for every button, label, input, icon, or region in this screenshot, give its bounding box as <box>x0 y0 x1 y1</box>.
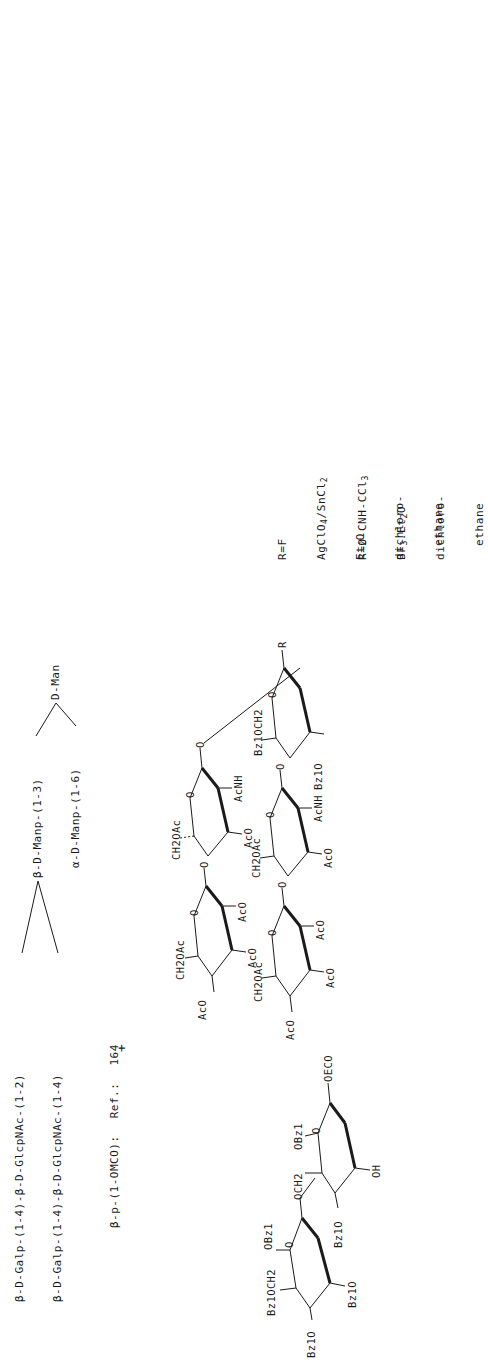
donor-label: AcNH <box>312 795 324 822</box>
donor-label: Bz1OCH2 <box>252 709 264 756</box>
donor-label: CH2OAc <box>170 820 182 860</box>
condition-promoter: BF3.Et2O <box>395 475 408 560</box>
donor-label: O <box>264 811 276 818</box>
donor-label: Bz1O <box>312 763 324 790</box>
donor-label: AcNH <box>232 775 244 802</box>
donor-label: AcO <box>314 920 326 940</box>
condition-leaving-group: R=F <box>276 477 289 560</box>
donor-label: O <box>276 881 288 888</box>
condition-solvent-1: dichloro- <box>434 475 447 560</box>
donor-label: O <box>266 691 278 698</box>
donor-label: O <box>194 741 206 748</box>
donor-label: CH2OAc <box>174 940 186 980</box>
donor-label: AcO <box>324 968 336 988</box>
donor-label: O <box>266 929 278 936</box>
donor-label: O <box>184 791 196 798</box>
donor-label: CH2OAc <box>250 838 262 878</box>
donor-label: O <box>274 763 286 770</box>
donor-anomeric-r: R <box>276 641 288 648</box>
donor-label: O <box>188 909 200 916</box>
donor-label: AcO <box>322 848 334 868</box>
donor-label: AcO <box>196 1000 208 1020</box>
donor-label: AcO <box>284 1020 296 1040</box>
donor-label: AcO <box>236 902 248 922</box>
condition-promoter: AgClO4/SnCl2 <box>315 477 328 560</box>
donor-label: CH2OAc <box>252 962 264 1002</box>
condition-leaving-group: R=O-CNH-CCl3 <box>356 475 369 560</box>
conditions-imidate: R=O-CNH-CCl3 BF3.Et2O dichloro- ethane <box>330 475 488 560</box>
condition-solvent-2: ethane <box>473 475 486 560</box>
donor-label: O <box>198 861 210 868</box>
